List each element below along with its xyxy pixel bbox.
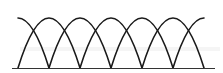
half-arch-left xyxy=(18,18,49,68)
arches-diagram xyxy=(0,0,223,73)
arch-1 xyxy=(18,18,80,68)
arch-5 xyxy=(142,18,204,68)
arch-3 xyxy=(80,18,142,68)
half-arch-right xyxy=(173,18,204,68)
arch-4 xyxy=(111,18,173,68)
arch-2 xyxy=(49,18,111,68)
